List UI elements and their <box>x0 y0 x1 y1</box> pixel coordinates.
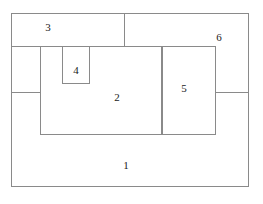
diagram-canvas: 1 2 3 4 5 6 <box>0 0 263 204</box>
region-5-label: 5 <box>181 83 187 94</box>
region-2-label: 2 <box>114 92 120 103</box>
region-1-label: 1 <box>123 160 129 171</box>
region-4-label: 4 <box>73 65 79 76</box>
vertical-divider-top-band <box>124 13 125 46</box>
region-5-rectangle <box>162 46 216 135</box>
region-2-rectangle <box>40 46 162 135</box>
region-3-label: 3 <box>45 22 51 33</box>
horizontal-stub-left <box>11 92 40 93</box>
region-6-label: 6 <box>216 32 222 43</box>
horizontal-stub-right <box>216 92 249 93</box>
